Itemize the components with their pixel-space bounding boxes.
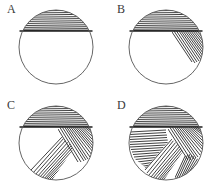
panel-label-a: A xyxy=(7,2,16,16)
hatch-region-top-cap-d xyxy=(125,106,206,126)
hatch-region-left-horizontal-d xyxy=(130,130,168,168)
hatch-region-top-cap-a xyxy=(15,10,96,30)
panel-b: B xyxy=(110,0,220,96)
hatch-region-top-cap-b xyxy=(125,10,206,30)
panel-label-c: C xyxy=(7,98,15,112)
panel-a: A xyxy=(0,0,110,96)
panel-b-diagram xyxy=(110,0,220,96)
panel-label-b: B xyxy=(117,2,125,16)
panel-a-diagram xyxy=(0,0,110,96)
panel-c-diagram xyxy=(0,96,110,191)
panel-d: D xyxy=(110,96,220,191)
hatch-region-right-diagonal-d xyxy=(168,128,203,161)
hatch-region-lower-left-diagonal-c xyxy=(31,137,78,180)
panel-d-diagram xyxy=(110,96,220,191)
hatch-region-top-cap-c xyxy=(15,106,96,126)
figure-grid: A xyxy=(0,0,220,191)
panel-label-d: D xyxy=(117,98,126,112)
hatch-region-right-diagonal-c xyxy=(58,128,93,163)
hatch-region-right-diagonal-b xyxy=(172,31,203,63)
panel-c: C xyxy=(0,96,110,191)
